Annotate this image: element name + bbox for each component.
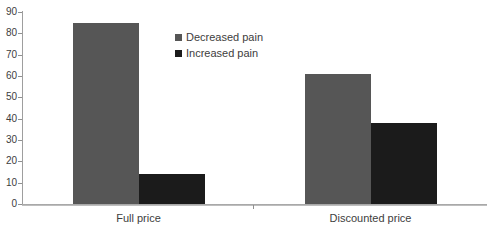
y-tick-mark <box>18 204 22 205</box>
bar-decreased-pain-full-price <box>73 23 139 204</box>
bar-chart: 0102030405060708090 Full priceDiscounted… <box>0 0 489 233</box>
legend-entry: Decreased pain <box>175 29 263 45</box>
y-tick-label: 40 <box>0 114 17 124</box>
y-axis <box>22 11 23 205</box>
x-tick-mark <box>253 205 254 209</box>
x-axis <box>22 204 487 206</box>
y-tick-mark <box>18 161 22 162</box>
legend-label: Increased pain <box>186 47 258 59</box>
legend-swatch-icon <box>175 34 182 41</box>
legend-entry: Increased pain <box>175 45 263 61</box>
y-tick-mark <box>18 55 22 56</box>
bar-increased-pain-discounted-price <box>371 123 437 204</box>
y-tick-mark <box>18 119 22 120</box>
y-tick-label: 60 <box>0 71 17 81</box>
y-tick-mark <box>18 97 22 98</box>
y-tick-mark <box>18 76 22 77</box>
y-tick-label: 80 <box>0 28 17 38</box>
category-label: Discounted price <box>301 212 441 224</box>
y-tick-mark <box>18 140 22 141</box>
y-tick-label: 30 <box>0 135 17 145</box>
y-tick-label: 20 <box>0 156 17 166</box>
bar-decreased-pain-discounted-price <box>305 74 371 204</box>
bar-increased-pain-full-price <box>139 174 205 204</box>
y-tick-label: 70 <box>0 50 17 60</box>
legend: Decreased painIncreased pain <box>175 29 263 61</box>
y-tick-label: 10 <box>0 178 17 188</box>
y-tick-label: 50 <box>0 92 17 102</box>
legend-swatch-icon <box>175 50 182 57</box>
y-tick-mark <box>18 33 22 34</box>
y-tick-label: 90 <box>0 7 17 17</box>
y-tick-label: 0 <box>0 199 17 209</box>
legend-label: Decreased pain <box>186 31 263 43</box>
category-label: Full price <box>69 212 209 224</box>
y-tick-mark <box>18 183 22 184</box>
y-tick-mark <box>18 12 22 13</box>
